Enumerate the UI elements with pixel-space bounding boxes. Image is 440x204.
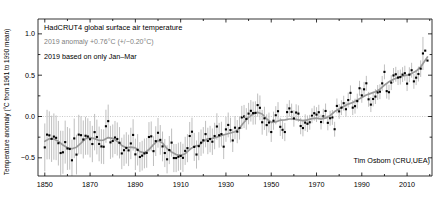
- svg-text:1910: 1910: [173, 180, 189, 189]
- svg-text:1870: 1870: [82, 180, 98, 189]
- chart-canvas: 185018701890191019301950197019902010 −0.…: [0, 0, 440, 204]
- svg-text:−0.5: −0.5: [21, 153, 35, 162]
- y-axis-tick-labels: −0.50.00.51.0: [21, 29, 35, 162]
- svg-text:1950: 1950: [263, 180, 279, 189]
- x-axis-tick-labels: 185018701890191019301950197019902010: [37, 180, 415, 189]
- svg-text:1850: 1850: [37, 180, 53, 189]
- chart-note: 2019 based on only Jan–Mar: [44, 52, 137, 61]
- svg-text:1930: 1930: [218, 180, 234, 189]
- svg-text:2010: 2010: [399, 180, 415, 189]
- svg-text:1970: 1970: [309, 180, 325, 189]
- svg-text:1890: 1890: [127, 180, 143, 189]
- svg-text:0.5: 0.5: [25, 71, 35, 80]
- chart-figure: 185018701890191019301950197019902010 −0.…: [0, 0, 440, 204]
- chart-credit: Tim Osborn (CRU,UEA): [354, 156, 430, 165]
- svg-text:1.0: 1.0: [25, 29, 35, 38]
- svg-text:0.0: 0.0: [25, 112, 35, 121]
- chart-title: HadCRUT4 global surface air temperature: [44, 23, 182, 32]
- chart-subtitle: 2019 anomaly +0.76°C (+/−0.20°C): [44, 38, 154, 46]
- y-axis-label: Temperature anomaly (°C from 1961 to 199…: [3, 29, 11, 175]
- smoothed-trend-line: [45, 57, 428, 155]
- svg-text:1990: 1990: [354, 180, 370, 189]
